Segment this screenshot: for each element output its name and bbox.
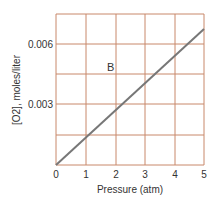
xtick-3: 3 [142,169,148,180]
xtick-1: 1 [83,169,89,180]
x-axis-label: Pressure (atm) [97,184,163,195]
xtick-4: 4 [172,169,178,180]
y-axis-label: [O2], moles/liter [11,54,22,125]
xtick-5: 5 [201,169,207,180]
grid [56,14,204,165]
chart: B 0.006 0.003 0 1 2 3 4 5 Pressure (atm)… [0,0,216,202]
xtick-0: 0 [53,169,59,180]
series-label-b: B [107,61,114,73]
ytick-0006: 0.006 [28,39,53,50]
ytick-0003: 0.003 [28,99,53,110]
xtick-2: 2 [113,169,119,180]
data-line-b [56,29,204,165]
